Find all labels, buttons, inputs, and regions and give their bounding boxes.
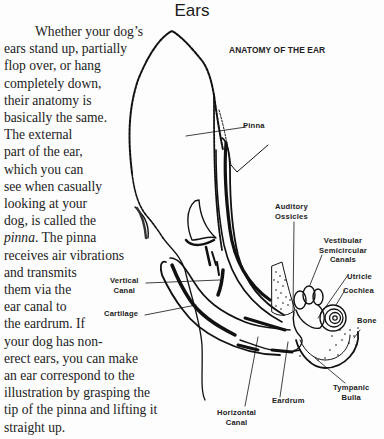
text-line: Whether your dog’s	[4, 23, 157, 40]
text-line: your dog has non-	[4, 333, 157, 350]
bone-leader	[354, 330, 360, 338]
label-horizontal-canal: Horizontal Canal	[217, 408, 256, 427]
text-line: which you can	[4, 161, 157, 178]
label-vestibular-semicircular-canals: Vestibular Semicircular Canals	[319, 236, 367, 265]
text-line: ears stand up, partially	[4, 40, 157, 57]
text-line: tip of the pinna and lifting it	[4, 401, 157, 418]
text-line: erect ears, you can make	[4, 350, 157, 367]
label-auditory-ossicles: Auditory Ossicles	[275, 202, 308, 221]
text-line: part of the ear,	[4, 143, 157, 160]
label-eardrum: Eardrum	[272, 396, 305, 406]
text-line: looking at your	[4, 195, 157, 212]
tympanic-bulla-leader	[315, 358, 345, 383]
text-line: their anatomy is	[4, 92, 157, 109]
label-tympanic-bulla: Tympanic Bulla	[333, 383, 369, 402]
text-line: The external	[4, 126, 157, 143]
text-line: basically the same.	[4, 109, 157, 126]
text-line: dog, is called the	[4, 212, 157, 229]
text-line: straight up.	[4, 419, 157, 436]
text-line: receives air vibrations	[4, 247, 157, 264]
italic-term: pinna	[4, 230, 35, 245]
text-line-pinna: pinna. The pinna	[4, 229, 157, 246]
diagram-title: ANATOMY OF THE EAR	[229, 45, 325, 55]
text-line: an ear correspond to the	[4, 367, 157, 384]
label-cochlea: Cochlea	[343, 286, 374, 296]
label-cartilage: Cartilage	[104, 309, 138, 319]
text-line: completely down,	[4, 75, 157, 92]
label-bone: Bone	[357, 316, 377, 326]
text-line: flop over, or hang	[4, 57, 157, 74]
body-text: Whether your dog’s ears stand up, partia…	[4, 23, 157, 436]
text-line: see when casually	[4, 178, 157, 195]
label-pinna: Pinna	[243, 121, 265, 131]
label-utricle: Utricle	[347, 272, 372, 282]
text-line: illustration by grasping the	[4, 384, 157, 401]
label-vertical-canal: Vertical Canal	[110, 276, 139, 295]
